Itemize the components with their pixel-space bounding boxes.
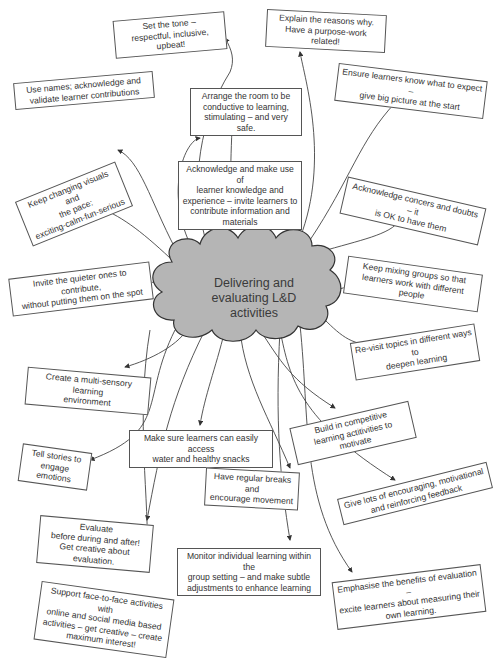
node-acknowledge-knowledge: Acknowledge and make use of learner know… [178, 161, 302, 230]
central-topic-line: Delivering and [188, 276, 320, 291]
node-water-snacks: Make sure learners can easily access wat… [129, 430, 273, 468]
node-text: adjustments to enhance learning [181, 583, 317, 594]
node-text: learner knowledge and [182, 185, 298, 196]
node-monitor: Monitor individual learning within the g… [177, 548, 321, 596]
node-text: Arrange the room to be [194, 91, 298, 102]
central-topic-label: Delivering and evaluating L&D activities [188, 276, 320, 321]
node-text: Monitor individual learning within the [181, 551, 317, 572]
node-evaluate: Evaluate before during and after! Get cr… [36, 515, 154, 573]
node-text: water and healthy snacks [133, 454, 269, 465]
node-text: Acknowledge and make use of [182, 164, 298, 185]
node-explain-reasons: Explain the reasons why. Have a purpose-… [265, 9, 387, 53]
node-text: contribute information and [182, 206, 298, 217]
node-regular-breaks: Have regular breaks and encourage moveme… [204, 468, 300, 510]
node-text: Make sure learners can easily access [133, 433, 269, 454]
node-text: experience – invite learners to [182, 196, 298, 207]
central-topic-line: activities [188, 306, 320, 321]
node-text: stimulating – and very safe. [194, 112, 298, 133]
node-text: materials [182, 217, 298, 228]
central-topic-line: evaluating L&D [188, 291, 320, 306]
node-text: conductive to learning, [194, 102, 298, 113]
node-arrange-room: Arrange the room to be conductive to lea… [190, 88, 302, 136]
node-text: group setting – and make subtle [181, 572, 317, 583]
